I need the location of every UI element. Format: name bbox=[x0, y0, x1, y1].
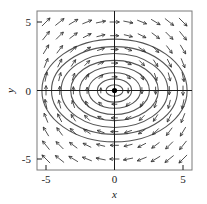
y-tick-label-pos5: 5 bbox=[26, 16, 32, 28]
y-tick-label-neg5: -5 bbox=[22, 153, 32, 165]
x-tick-label-pos5: 5 bbox=[180, 173, 186, 185]
phase-portrait-figure: 5 0 -5 -5 0 5 x y bbox=[0, 0, 207, 204]
x-tick-label-neg5: -5 bbox=[41, 173, 51, 185]
x-tick-label-zero: 0 bbox=[112, 173, 118, 185]
origin-fixed-point-marker bbox=[112, 88, 117, 93]
y-tick-label-zero: 0 bbox=[26, 85, 32, 97]
x-axis-label: x bbox=[111, 188, 117, 200]
y-axis-label: y bbox=[4, 88, 16, 94]
